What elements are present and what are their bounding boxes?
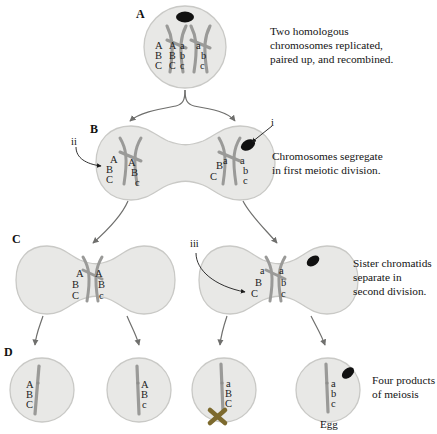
stage-d-cell-4-egg	[296, 358, 360, 422]
stage-b-cell	[96, 126, 275, 200]
stage-d-letter: D	[4, 345, 13, 359]
stage-a-chromatid-1-bot: C	[155, 60, 162, 72]
stage-a-chromatid-3-bot: c	[180, 60, 184, 72]
stage-b-right-chromatid-1-mid: B	[216, 160, 223, 172]
stage-d-cell-2	[107, 358, 171, 422]
arrow-a-to-b	[130, 90, 235, 121]
stage-a-chromatid-4-top: a	[196, 40, 201, 52]
stage-c-right-chromatid-1-bot: C	[251, 288, 258, 300]
stage-c-letter: C	[12, 232, 21, 246]
stage-d-product-1-bot: C	[26, 399, 33, 411]
stage-b-left-chromatid-2-bot: c	[135, 177, 140, 189]
stage-c-left-chromatid-1-bot: C	[72, 290, 79, 302]
marker-i-label: i	[271, 117, 274, 129]
arrow-b-to-c	[93, 201, 277, 243]
stage-b-left-chromatid-1-bot: C	[106, 174, 113, 186]
stage-d-product-3-bot: C	[225, 398, 232, 410]
polar-body-a	[176, 12, 194, 23]
stage-a-chromatid-4-bot: c	[200, 60, 205, 72]
stage-d-product-2-bot: c	[142, 399, 147, 411]
stage-b-caption: Chromosomes segregate in first meiotic d…	[272, 150, 383, 178]
stage-b-right-chromatid-1-bot: C	[210, 171, 217, 183]
stage-a-letter: A	[136, 7, 145, 21]
stage-d-product-4-bot: c	[331, 398, 336, 410]
stage-c-caption: Sister chromatids separate in second div…	[353, 257, 432, 298]
stage-b-right-chromatid-1-top: a	[223, 155, 227, 167]
stage-d-cell-1	[10, 358, 74, 422]
marker-ii-label: ii	[71, 136, 77, 148]
arrow-c-to-d	[35, 316, 325, 345]
stage-c-right-cell	[199, 246, 358, 314]
stage-c-right-chromatid-1-top: a	[260, 265, 264, 277]
stage-c-left-chromatid-2-bot: c	[99, 290, 104, 302]
stage-c-right-chromatid-2-bot: c	[281, 288, 286, 300]
marker-iii-label: iii	[190, 238, 199, 250]
stage-d-cell-3	[192, 358, 256, 423]
meiosis-diagram: A Two homologous chromosomes replicated,…	[0, 0, 437, 434]
stage-b-letter: B	[90, 122, 98, 136]
stage-d-caption: Four products of meiosis	[372, 374, 435, 402]
stage-c-right-chromatid-2-top: a	[279, 265, 284, 277]
egg-label: Egg	[320, 418, 338, 431]
stage-a-caption: Two homologous chromosomes replicated, p…	[270, 25, 393, 66]
stage-a-chromatid-2-bot: C	[169, 60, 176, 72]
stage-b-right-chromatid-2-bot: c	[243, 175, 248, 187]
